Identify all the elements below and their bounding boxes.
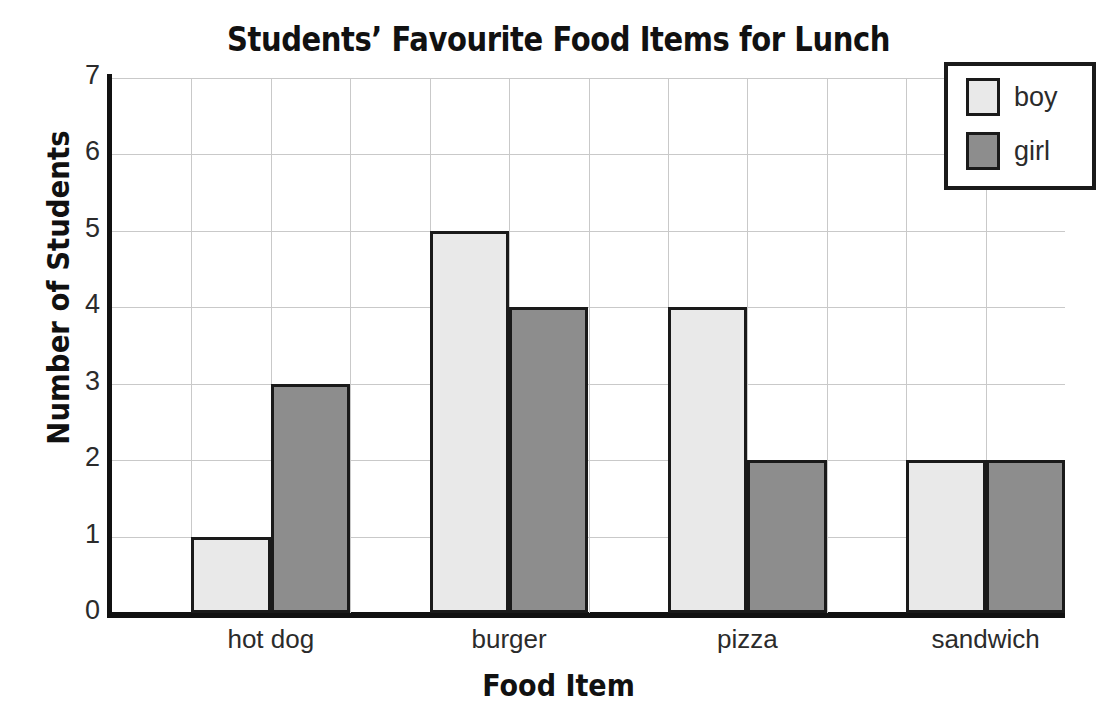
bar-pizza-boy bbox=[668, 307, 747, 613]
y-tick-7: 7 bbox=[60, 60, 100, 91]
x-axis-title: Food Item bbox=[56, 668, 1061, 703]
bar-pizza-girl bbox=[747, 460, 826, 613]
bar-burger-boy bbox=[430, 231, 509, 613]
bar-sandwich-girl bbox=[986, 460, 1065, 613]
x-label-hot-dog: hot dog bbox=[151, 624, 391, 655]
y-tick-0: 0 bbox=[60, 595, 100, 626]
bar-hot-dog-girl bbox=[271, 384, 350, 613]
chart-title: Students’ Favourite Food Items for Lunch bbox=[67, 20, 1050, 59]
x-label-pizza: pizza bbox=[627, 624, 867, 655]
legend-swatch-boy-icon bbox=[966, 78, 1000, 116]
y-tick-1: 1 bbox=[60, 519, 100, 550]
bar-hot-dog-boy bbox=[191, 537, 270, 613]
legend-label-girl: girl bbox=[1014, 136, 1050, 167]
legend-swatch-girl-icon bbox=[966, 132, 1000, 170]
plot-area bbox=[112, 78, 1065, 613]
bar-burger-girl bbox=[509, 307, 588, 613]
legend-label-boy: boy bbox=[1014, 82, 1058, 113]
x-label-sandwich: sandwich bbox=[866, 624, 1106, 655]
chart-page: Students’ Favourite Food Items for Lunch… bbox=[0, 0, 1117, 710]
x-label-burger: burger bbox=[389, 624, 629, 655]
legend-item-girl[interactable]: girl bbox=[966, 132, 1050, 170]
gridline-vertical bbox=[191, 78, 192, 613]
chart-legend: boy girl bbox=[944, 62, 1096, 190]
gridline-vertical bbox=[827, 78, 828, 613]
legend-item-boy[interactable]: boy bbox=[966, 78, 1058, 116]
bar-sandwich-boy bbox=[906, 460, 985, 613]
gridline-vertical bbox=[350, 78, 351, 613]
y-axis-title: Number of Students bbox=[41, 94, 76, 480]
gridline-vertical bbox=[589, 78, 590, 613]
